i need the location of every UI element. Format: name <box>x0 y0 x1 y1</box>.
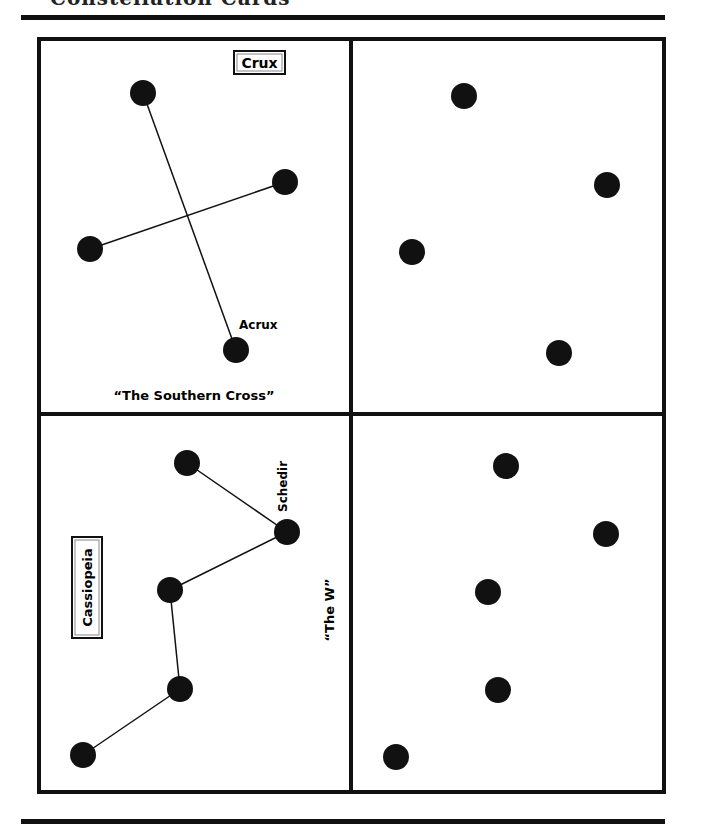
crux-name-label: Crux <box>234 51 285 74</box>
cassiopeia-blank-star-5 <box>383 744 409 770</box>
cassiopeia-star-3 <box>157 577 183 603</box>
cassiopeia-connection-line <box>170 590 180 689</box>
cassiopeia-name-label: Cassiopeia <box>72 537 102 638</box>
acrux-star-label: Acrux <box>239 318 278 332</box>
crux-blank-star-3 <box>399 239 425 265</box>
constellation-stars <box>70 80 620 770</box>
crux-star-2 <box>272 169 298 195</box>
crux-connection-line <box>90 182 285 249</box>
crux-name-text: Crux <box>241 55 277 71</box>
cassiopeia-name-text: Cassiopeia <box>80 548 95 627</box>
crux-nickname: “The Southern Cross” <box>114 388 275 403</box>
schedir-star-label: Schedir <box>276 461 290 512</box>
crux-blank-star-4 <box>546 340 572 366</box>
constellation-lines <box>83 93 287 755</box>
cassiopeia-blank-star-1 <box>493 453 519 479</box>
cassiopeia-blank-star-2 <box>593 521 619 547</box>
crux-blank-star-1 <box>451 83 477 109</box>
cassiopeia-connection-line <box>170 532 287 590</box>
crux-star-1 <box>130 80 156 106</box>
constellation-card-grid: Crux Acrux “The Southern Cross” Cassiope… <box>0 0 702 836</box>
cassiopeia-star-4 <box>167 676 193 702</box>
cassiopeia-connection-line <box>187 463 287 532</box>
crux-blank-star-2 <box>594 172 620 198</box>
cassiopeia-connection-line <box>83 689 180 755</box>
cassiopeia-blank-star-3 <box>475 579 501 605</box>
cassiopeia-star-2 <box>274 519 300 545</box>
cassiopeia-star-5 <box>70 742 96 768</box>
crux-star-4 <box>223 337 249 363</box>
crux-star-3 <box>77 236 103 262</box>
cassiopeia-blank-star-4 <box>485 677 511 703</box>
cassiopeia-nickname: “The W” <box>322 579 337 642</box>
cassiopeia-star-1 <box>174 450 200 476</box>
crux-connection-line <box>143 93 236 350</box>
